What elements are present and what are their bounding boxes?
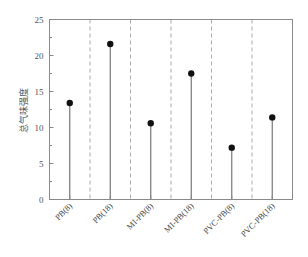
y-tick-label: 15 (35, 87, 45, 97)
data-point-marker (229, 144, 235, 150)
x-tick-label: PB(8) (53, 201, 75, 223)
y-axis-label: 总气味强度 (18, 88, 29, 133)
y-tick-label: 25 (35, 15, 45, 25)
data-point-marker (107, 41, 113, 47)
y-tick-label: 20 (35, 51, 45, 61)
data-point-marker (148, 120, 154, 126)
x-axis: PB(8)PB(18)MI-PB(8)MI-PB(18)PVC-PB(8)PVC… (53, 196, 277, 239)
stem-chart: 0510152025 PB(8)PB(18)MI-PB(8)MI-PB(18)P… (0, 0, 308, 257)
y-axis: 0510152025 (35, 15, 54, 205)
y-tick-label: 0 (39, 195, 44, 205)
x-tick-label: PVC-PB(8) (201, 201, 236, 236)
data-point-marker (188, 70, 194, 76)
plot-frame (50, 20, 293, 200)
x-tick-label: PB(18) (90, 201, 115, 226)
data-point-marker (269, 114, 275, 120)
x-tick-label: PVC-PB(18) (239, 201, 277, 239)
x-tick-label: MI-PB(8) (124, 201, 155, 232)
y-tick-label: 5 (39, 159, 44, 169)
x-tick-label: MI-PB(18) (162, 201, 196, 235)
group-separators (90, 20, 252, 200)
y-tick-label: 10 (35, 123, 45, 133)
data-point-marker (67, 100, 73, 106)
